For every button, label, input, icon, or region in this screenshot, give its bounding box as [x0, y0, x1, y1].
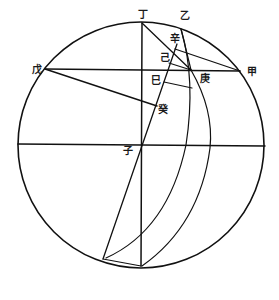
- label-jia: 甲: [247, 66, 257, 77]
- slanted-line: [103, 44, 177, 259]
- arc-yi-inner: [106, 29, 190, 258]
- label-si: 巳: [151, 75, 161, 86]
- label-gui: 癸: [157, 103, 169, 115]
- line-wu-gui: [45, 69, 157, 106]
- label-geng: 庚: [200, 72, 210, 84]
- arc-geng-outer: [142, 70, 211, 266]
- chord-wu-jia: [45, 69, 240, 71]
- diagram-canvas: 丁 乙 辛 己 戊 甲 庚 巳 癸 子: [0, 0, 279, 300]
- label-ding: 丁: [138, 9, 148, 20]
- label-zi: 子: [123, 145, 133, 156]
- label-xin: 辛: [170, 32, 180, 44]
- geometric-diagram: 丁 乙 辛 己 戊 甲 庚 巳 癸 子: [0, 0, 279, 300]
- label-yi: 乙: [180, 10, 190, 21]
- label-wu: 戊: [31, 63, 42, 75]
- bottom-chord: [103, 259, 141, 266]
- line-si: [164, 82, 192, 88]
- label-ji: 己: [160, 52, 170, 63]
